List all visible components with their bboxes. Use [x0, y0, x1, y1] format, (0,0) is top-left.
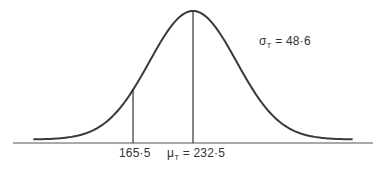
marked-value-label: 165·5: [119, 146, 151, 160]
marked-value-text: 165·5: [119, 146, 151, 160]
sigma-symbol: σ: [259, 34, 267, 48]
sigma-value: = 48·6: [272, 34, 311, 48]
sigma-label: σT = 48·6: [259, 34, 311, 50]
mean-value: = 232·5: [179, 146, 225, 160]
mean-label: μT = 232·5: [167, 146, 225, 162]
